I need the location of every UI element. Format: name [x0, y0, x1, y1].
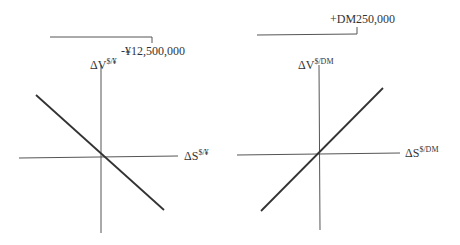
dm-position-label: +DM250,000	[330, 13, 395, 25]
yen-x-axis-label: ΔS$/¥	[184, 150, 209, 162]
yen-value-line	[36, 95, 164, 210]
dm-y-axis-label: ΔV$/DM	[298, 59, 334, 71]
yen-position-label: -¥12,500,000	[121, 45, 185, 57]
yen-x-axis	[19, 156, 178, 158]
dm-x-axis-label: ΔS$/DM	[405, 147, 439, 159]
yen-y-axis-label: ΔV$/¥	[90, 59, 117, 71]
diagram-canvas	[0, 0, 460, 245]
yen-position-bracket	[50, 37, 152, 43]
dm-position-bracket	[257, 27, 357, 35]
dm-y-axis	[319, 65, 320, 230]
dm-value-line	[261, 88, 383, 211]
